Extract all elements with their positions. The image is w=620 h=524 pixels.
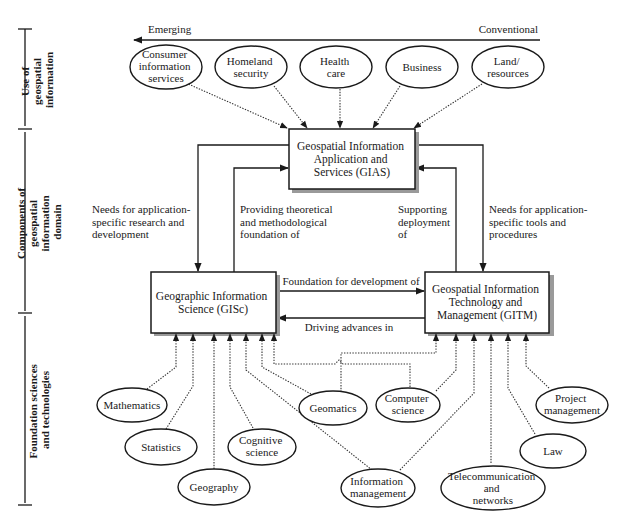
label-foundation-for-development: Foundation for development of	[282, 275, 420, 287]
svg-text:Law: Law	[543, 445, 563, 457]
svg-text:Information management: Information management	[350, 475, 406, 499]
side-label-foundation: Foundation sciences and technologies	[27, 361, 51, 458]
svg-text:Geomatics: Geomatics	[309, 402, 356, 414]
geospatial-domain-diagram: Use of geospatial information Components…	[0, 0, 620, 524]
emerging-conventional-axis: Emerging Conventional	[134, 23, 540, 40]
svg-text:Mathematics: Mathematics	[104, 399, 161, 411]
use-oval-consumer-information-services: Consumer information services	[130, 45, 202, 89]
foundation-oval-law: Law	[520, 434, 586, 468]
foundation-oval-mathematics: Mathematics	[97, 388, 167, 422]
side-bracket-components: Components of geospatial information dom…	[15, 132, 63, 313]
label-driving-advances: Driving advances in	[305, 321, 394, 333]
side-bracket-use: Use of geospatial information	[18, 29, 55, 129]
svg-text:Statistics: Statistics	[141, 441, 181, 453]
foundation-oval-geography: Geography	[178, 469, 250, 505]
box-gitm: Geospatial Information Technology and Ma…	[425, 272, 554, 336]
foundation-oval-statistics: Statistics	[125, 429, 197, 465]
foundation-oval-project-management: Project management	[536, 387, 608, 423]
use-oval-health-care: Health care	[300, 46, 372, 88]
use-oval-land-resources: Land/ resources	[472, 46, 544, 88]
emerging-label: Emerging	[148, 23, 192, 35]
label-supporting-deployment: Supporting deployment of	[398, 203, 453, 240]
foundation-oval-information-management: Information management	[341, 469, 415, 507]
use-oval-homeland-security: Homeland security	[215, 46, 287, 88]
foundation-oval-computer-science: Computer science	[376, 388, 440, 422]
label-providing-foundation: Providing theoretical and methodological…	[240, 203, 335, 240]
svg-text:Business: Business	[402, 61, 441, 73]
svg-text:Homeland security: Homeland security	[227, 55, 276, 79]
foundation-oval-cognitive-science: Cognitive science	[228, 429, 296, 465]
use-connectors	[186, 83, 482, 128]
label-needs-tools: Needs for application- specific tools an…	[489, 203, 590, 240]
svg-text:Cognitive science: Cognitive science	[239, 434, 285, 458]
label-needs-research: Needs for application- specific research…	[92, 203, 193, 240]
side-label-components: Components of geospatial information dom…	[15, 185, 63, 259]
conventional-label: Conventional	[479, 23, 538, 35]
foundation-oval-geomatics: Geomatics	[299, 391, 367, 425]
box-gisc: Geographic Information Science (GISc)	[151, 272, 280, 336]
svg-text:Geography: Geography	[190, 481, 239, 493]
use-oval-business: Business	[386, 46, 458, 88]
side-bracket-foundation: Foundation sciences and technologies	[18, 316, 51, 505]
foundation-oval-telecommunication-networks: Telecommunication and networks	[441, 466, 545, 510]
box-gias: Geospatial Information Application and S…	[289, 129, 419, 193]
